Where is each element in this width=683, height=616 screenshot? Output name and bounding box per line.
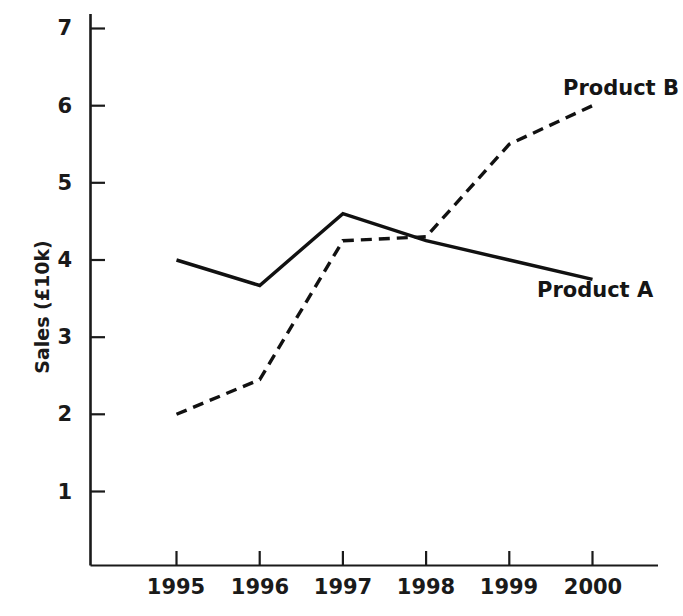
line-chart: Sales (£10k) 7 6 5 4 3 2 1 1995 1996 199… [0,0,683,616]
y-tick-marks [91,29,106,492]
y-tick-label-6: 6 [42,94,72,118]
x-tick-label-1996: 1996 [231,575,289,599]
y-tick-label-7: 7 [42,16,72,40]
x-tick-label-1999: 1999 [480,575,538,599]
y-tick-label-1: 1 [42,480,72,504]
x-tick-label-2000: 2000 [564,575,622,599]
y-tick-label-2: 2 [42,402,72,426]
x-tick-label-1997: 1997 [314,575,372,599]
x-tick-marks [177,551,593,566]
series-line-product-a [177,214,593,286]
x-tick-label-1998: 1998 [397,575,455,599]
y-tick-label-4: 4 [42,248,72,272]
y-tick-label-3: 3 [42,325,72,349]
series-line-product-b [177,106,593,415]
x-tick-label-1995: 1995 [147,575,205,599]
series-label-product-b: Product B [563,76,679,100]
y-tick-label-5: 5 [42,171,72,195]
series-label-product-a: Product A [537,278,653,302]
